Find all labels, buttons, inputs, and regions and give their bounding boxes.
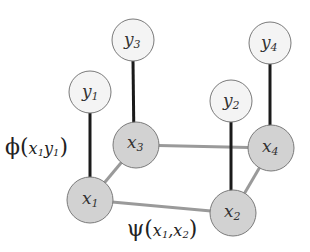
node-x4: x4 <box>248 125 294 171</box>
node-y3: y3 <box>112 19 154 61</box>
node-x3: x3 <box>113 122 159 168</box>
node-x1: x1 <box>67 177 113 223</box>
node-y4: y4 <box>249 22 291 64</box>
psi-label: ψ(x1,x2) <box>127 216 197 241</box>
diagram-svg: y3 y1 y4 y2 x3 x4 <box>0 0 310 252</box>
mrf-diagram: y3 y1 y4 y2 x3 x4 <box>0 0 310 252</box>
hidden-nodes: x3 x4 x1 x2 <box>67 122 294 236</box>
node-x2: x2 <box>210 190 256 236</box>
phi-label: ϕ(x1y1) <box>5 134 68 159</box>
observed-nodes: y3 y1 y4 y2 <box>69 19 291 122</box>
node-y2: y2 <box>210 80 252 122</box>
node-y1: y1 <box>69 71 111 113</box>
